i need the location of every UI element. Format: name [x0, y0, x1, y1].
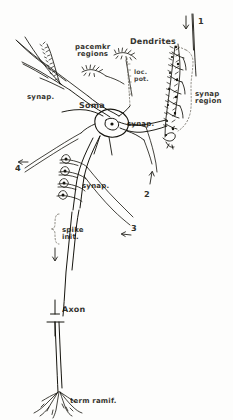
marker-label-3: 3: [131, 224, 137, 233]
marker-label-1: 1: [198, 17, 204, 26]
dendrite-tree-right: [165, 44, 186, 136]
collateral-branch-three: [84, 167, 133, 225]
label-soma: Soma: [79, 102, 105, 110]
label-pacemkr-regions: pacemkr regions: [75, 44, 110, 59]
label-synap-left: synap.: [27, 94, 54, 101]
pacemaker-tuft-left: [82, 65, 124, 84]
spike-init-brace: [51, 214, 59, 244]
soma-processes: [81, 124, 146, 155]
marker-label-4: 4: [15, 164, 21, 173]
label-synap-axon: synap.: [82, 183, 109, 190]
axon-bouton-knobs: [59, 155, 71, 200]
label-axon: Axon: [62, 306, 85, 314]
marker-label-2: 2: [144, 190, 150, 199]
axon-shaft-lower: [55, 322, 62, 392]
axon-synaptic-boutons: [57, 160, 87, 202]
label-term-ramif: term ramif.: [70, 398, 117, 405]
neuron-diagram-figure: 1 Dendrites pacemkr regions loc. pot. sy…: [0, 0, 233, 420]
label-loc-pot: loc. pot.: [134, 70, 149, 83]
label-synap-soma: synap.: [127, 121, 154, 128]
collateral-branch-two: [144, 127, 157, 172]
label-spike-init: spike init.: [62, 227, 84, 242]
collateral-branch-four: [25, 133, 81, 172]
pacemaker-tuft-right: [114, 48, 136, 96]
label-synap-region: synap region: [195, 91, 222, 106]
axon-node-upper: [51, 300, 60, 314]
arrow-left-icon-three: [121, 232, 131, 237]
arrow-down-icon-spike-init: [53, 248, 58, 261]
label-dendrites: Dendrites: [130, 38, 176, 46]
dendrite-spines-right: [164, 47, 180, 129]
neuron-drawing-canvas: [0, 0, 233, 420]
arrow-down-icon-top: [183, 16, 188, 29]
arrow-up-icon-two: [149, 171, 154, 184]
soma-nucleolus: [110, 122, 113, 125]
dendrite-boutons-right: [165, 46, 179, 136]
